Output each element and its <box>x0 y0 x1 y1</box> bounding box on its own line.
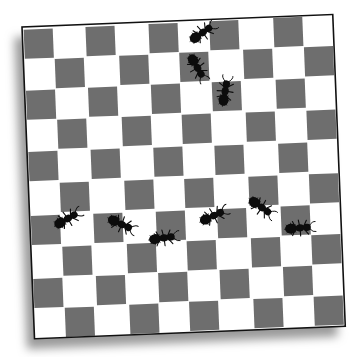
board-square <box>187 240 217 270</box>
board-square <box>28 151 58 181</box>
board-square <box>31 215 61 245</box>
board-square <box>309 173 339 203</box>
board-square <box>88 86 118 116</box>
board-square <box>311 234 341 264</box>
board-square <box>273 17 303 47</box>
board-square <box>151 84 181 114</box>
board-square <box>62 245 92 275</box>
board-square <box>127 243 157 273</box>
board-square <box>278 143 308 173</box>
board-square <box>283 266 313 296</box>
board-square <box>60 182 90 212</box>
board-square <box>209 20 239 50</box>
board-square <box>57 118 87 148</box>
board-square <box>158 272 188 302</box>
board-square <box>314 296 344 326</box>
board-square <box>246 111 276 141</box>
board-square <box>219 269 249 299</box>
board-square <box>119 55 149 85</box>
board-square <box>26 89 56 119</box>
board-square <box>189 301 219 331</box>
checkerboard-scene <box>0 0 355 357</box>
board-square <box>253 298 283 328</box>
board-square <box>33 278 63 308</box>
board-square <box>276 79 306 109</box>
board-square <box>306 110 336 140</box>
board-square <box>122 116 152 146</box>
board-square <box>85 26 115 56</box>
board-square <box>91 149 121 179</box>
board-square <box>153 147 183 177</box>
board-square <box>148 23 178 53</box>
board-square <box>251 237 281 267</box>
board-square <box>55 58 85 88</box>
board-square <box>182 114 212 144</box>
board-square <box>24 28 54 58</box>
board-square <box>129 304 159 334</box>
board-square <box>65 307 95 337</box>
board-square <box>214 145 244 175</box>
board-square <box>124 180 154 210</box>
board-square <box>243 49 273 79</box>
board-square <box>96 275 126 305</box>
checkerboard <box>22 15 345 339</box>
board-square <box>304 46 334 76</box>
board-square <box>184 178 214 208</box>
